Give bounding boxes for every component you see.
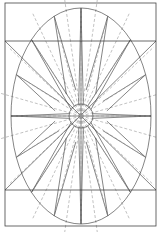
star-point — [103, 121, 146, 157]
star-point — [16, 75, 59, 111]
compass-star-diagram — [0, 0, 157, 232]
star-point — [88, 40, 131, 110]
star-point — [103, 75, 146, 111]
star-point — [32, 40, 75, 110]
star-point — [16, 121, 59, 157]
star-point — [88, 123, 131, 193]
